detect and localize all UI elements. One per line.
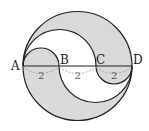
label-b: B <box>60 53 69 67</box>
label-a: A <box>10 59 20 73</box>
label-c: C <box>96 53 105 67</box>
geometry-figure: A B C D 2 2 2 <box>0 0 149 131</box>
length-bc: 2 <box>75 70 81 81</box>
label-d: D <box>133 53 143 67</box>
shaded-semicircle-ab <box>23 48 59 66</box>
length-cd: 2 <box>111 70 117 81</box>
length-ab: 2 <box>38 70 44 81</box>
